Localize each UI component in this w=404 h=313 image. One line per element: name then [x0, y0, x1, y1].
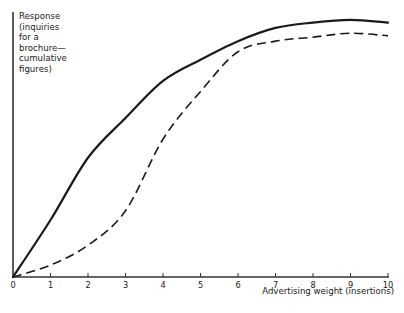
x-axis-title: Advertising weight (insertions): [262, 286, 394, 296]
x-tick-label: 1: [48, 280, 53, 290]
x-tick-label: 0: [10, 280, 15, 290]
y-axis-title-line: figures): [19, 64, 67, 75]
x-tick-label: 5: [198, 280, 203, 290]
x-tick-label: 4: [160, 280, 165, 290]
y-axis-title-line: brochure—: [19, 43, 67, 54]
y-axis-title-line: for a: [19, 32, 67, 43]
y-axis-title-line: Response: [19, 11, 67, 22]
solid-response-curve: [13, 20, 388, 277]
y-axis-title-line: cumulative: [19, 53, 67, 64]
x-tick-label: 3: [123, 280, 128, 290]
dashed-response-curve: [13, 33, 388, 277]
y-axis-title: Response (inquiries for a brochure— cumu…: [19, 11, 67, 75]
axes: [13, 12, 389, 277]
y-axis-title-line: (inquiries: [19, 22, 67, 33]
x-tick-label: 2: [85, 280, 90, 290]
x-tick-label: 6: [235, 280, 240, 290]
